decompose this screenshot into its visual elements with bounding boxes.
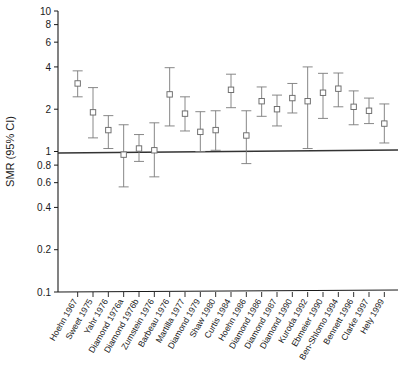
y-tick-label-6: 2 [45, 104, 51, 115]
data-point-group [257, 87, 267, 116]
point-estimate-marker [182, 111, 187, 116]
point-estimate-marker [259, 99, 264, 104]
data-point-group [180, 97, 190, 131]
y-tick-label-4: 0.8 [37, 160, 51, 171]
point-estimate-marker [382, 121, 387, 126]
point-estimate-marker [274, 107, 279, 112]
y-tick-label-3: 0.6 [37, 177, 51, 188]
y-tick-label-5: 1 [45, 146, 51, 157]
reference-line-smr-1 [58, 150, 398, 153]
point-estimate-marker [366, 108, 371, 113]
y-tick-label-8: 6 [45, 37, 51, 48]
y-tick-label-2: 0.4 [37, 202, 51, 213]
point-estimate-marker [152, 148, 157, 153]
point-estimate-marker [213, 127, 218, 132]
point-estimate-marker [106, 127, 111, 132]
y-tick-label-0: 0.1 [37, 287, 51, 298]
data-point-group [88, 88, 98, 138]
smr-forest-plot: 0.10.20.40.60.81246810SMR (95% CI)Hoehn … [0, 0, 408, 381]
data-point-group [241, 111, 251, 164]
data-point-group [195, 112, 205, 152]
data-point-group [149, 123, 159, 177]
point-estimate-marker [320, 90, 325, 95]
point-estimate-marker [228, 87, 233, 92]
data-point-group [226, 74, 236, 108]
data-point-group [103, 116, 113, 149]
point-estimate-marker [198, 129, 203, 134]
point-estimate-marker [351, 104, 356, 109]
y-tick-label-9: 8 [45, 19, 51, 30]
data-point-group [333, 73, 343, 107]
y-axis-label: SMR (95% CI) [4, 116, 16, 187]
forest-plot-figure: 0.10.20.40.60.81246810SMR (95% CI)Hoehn … [0, 0, 408, 381]
point-estimate-marker [75, 81, 80, 86]
point-estimate-marker [136, 146, 141, 151]
point-estimate-marker [290, 95, 295, 100]
point-estimate-marker [167, 92, 172, 97]
data-point-group [349, 91, 359, 125]
data-point-group [73, 71, 83, 97]
data-point-group [211, 111, 221, 151]
data-point-group [318, 73, 328, 118]
point-estimate-marker [121, 152, 126, 157]
y-tick-label-10: 10 [40, 6, 52, 17]
point-estimate-marker [336, 86, 341, 91]
data-point-group [272, 95, 282, 126]
y-tick-label-1: 0.2 [37, 244, 51, 255]
data-point-group [134, 135, 144, 162]
point-estimate-marker [305, 99, 310, 104]
data-point-group [119, 125, 129, 187]
y-tick-label-7: 4 [45, 62, 51, 73]
data-point-group [287, 83, 297, 113]
x-axis-line [58, 290, 398, 292]
point-estimate-marker [244, 133, 249, 138]
data-point-group [165, 68, 175, 126]
data-point-group [303, 67, 313, 149]
data-point-group [379, 104, 389, 143]
point-estimate-marker [90, 110, 95, 115]
data-point-group [364, 98, 374, 124]
